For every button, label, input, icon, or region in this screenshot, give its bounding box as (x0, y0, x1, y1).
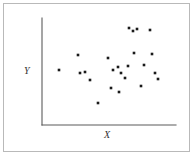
data-point (89, 79, 92, 82)
axes-group (42, 18, 176, 125)
data-points-group (58, 27, 160, 105)
data-point (79, 72, 82, 75)
data-point (112, 69, 115, 72)
data-point (127, 65, 130, 68)
figure-root: Y X (0, 0, 196, 155)
plot-canvas (0, 0, 196, 155)
data-point (157, 78, 160, 81)
y-axis-label: Y (24, 66, 30, 76)
scatter-plot: Y X (0, 0, 196, 155)
x-axis-label: X (104, 130, 110, 140)
data-point (151, 53, 154, 56)
data-point (140, 85, 143, 88)
data-point (128, 27, 131, 30)
data-point (133, 52, 136, 55)
data-point (77, 54, 80, 57)
data-point (154, 72, 157, 75)
data-point (143, 64, 146, 67)
data-point (149, 29, 152, 32)
data-point (124, 77, 127, 80)
data-point (120, 72, 123, 75)
data-point (84, 71, 87, 74)
data-point (118, 91, 121, 94)
data-point (107, 57, 110, 60)
data-point (97, 102, 100, 105)
data-point (110, 87, 113, 90)
data-point (117, 66, 120, 69)
data-point (132, 30, 135, 33)
data-point (58, 69, 61, 72)
data-point (136, 28, 139, 31)
